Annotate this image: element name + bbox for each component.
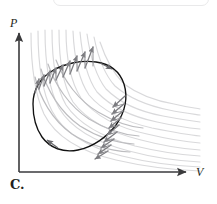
pv-diagram-canvas: P V: [0, 0, 217, 204]
sawtooth-arrow: [63, 61, 70, 77]
sawtooth-arrow: [101, 139, 114, 148]
panel-label: C.: [10, 178, 25, 191]
y-axis-label: P: [9, 16, 18, 30]
sawtooth-connector: [98, 104, 124, 154]
sawtooth-arrow: [70, 56, 77, 74]
x-axis-label: V: [196, 165, 205, 179]
isotherm-curves-accent: [35, 60, 143, 152]
isotherm-curve: [100, 42, 200, 109]
pv-diagram-figure: P V C.: [0, 0, 217, 204]
isotherm-curve: [59, 30, 200, 150]
